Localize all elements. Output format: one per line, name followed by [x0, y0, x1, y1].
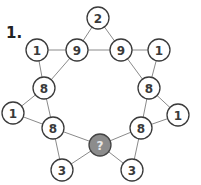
node-eight-right-lower: 8: [130, 117, 152, 139]
node-eight-right-upper: 8: [138, 77, 160, 99]
node-three-right: 3: [121, 159, 143, 181]
node-unknown[interactable]: ?: [89, 134, 111, 156]
node-value: 1: [174, 109, 182, 123]
node-nine-left: 9: [66, 39, 88, 61]
node-one-right: 1: [167, 104, 189, 126]
node-one-top-right: 1: [148, 39, 170, 61]
node-value: 3: [128, 164, 136, 178]
node-value: 9: [117, 44, 125, 58]
node-value: 1: [9, 107, 17, 121]
node-eight-left-upper: 8: [33, 77, 55, 99]
node-value: 8: [137, 122, 145, 136]
node-value: 8: [49, 122, 57, 136]
node-eight-left-lower: 8: [42, 117, 64, 139]
number-graph: 29911881188?33: [0, 0, 201, 185]
node-top: 2: [87, 7, 109, 29]
node-value: 1: [33, 44, 41, 58]
nodes: 29911881188?33: [2, 7, 189, 181]
node-value: 1: [155, 44, 163, 58]
node-three-left: 3: [51, 159, 73, 181]
node-value: 9: [73, 44, 81, 58]
node-nine-right: 9: [110, 39, 132, 61]
node-one-top-left: 1: [26, 39, 48, 61]
node-value: 8: [40, 82, 48, 96]
node-value: 8: [145, 82, 153, 96]
node-value: ?: [97, 139, 104, 153]
node-one-left: 1: [2, 102, 24, 124]
node-value: 2: [94, 12, 102, 26]
node-value: 3: [58, 164, 66, 178]
